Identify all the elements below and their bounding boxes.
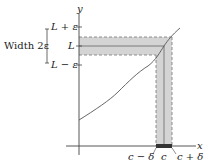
c-plus-delta-label: c + δ (177, 151, 203, 162)
width-label: Width 2ε (4, 40, 49, 51)
L-plus-epsilon-label: L + ε (50, 21, 78, 32)
y-axis-label: y (76, 3, 83, 14)
epsilon-delta-diagram: y x L + ε L L − ε Width 2ε c − δ c c + δ (0, 0, 211, 163)
diagram-svg: y x L + ε L L − ε Width 2ε c − δ c c + δ (0, 0, 211, 163)
x-axis-label: x (197, 140, 203, 151)
c-minus-delta-label: c − δ (128, 151, 154, 162)
L-label: L (67, 40, 75, 51)
c-label: c (161, 151, 167, 162)
delta-interval-bar (156, 144, 172, 148)
L-minus-epsilon-label: L − ε (50, 59, 78, 70)
